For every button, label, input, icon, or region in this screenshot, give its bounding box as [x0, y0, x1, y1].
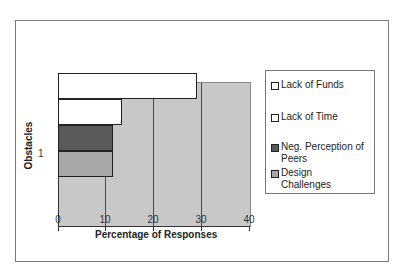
x-tick	[58, 227, 59, 231]
legend-swatch-icon	[271, 82, 279, 90]
x-tick-label: 10	[95, 214, 115, 225]
gridline-20	[153, 83, 154, 227]
x-tick-label: 30	[191, 214, 211, 225]
legend-swatch-icon	[271, 170, 279, 178]
legend-label: Design Challenges	[281, 167, 351, 191]
bar-neg-perception-of-peers	[58, 125, 113, 151]
bar-design-challenges	[58, 151, 113, 177]
legend-item: Neg. Perception of Peers	[271, 141, 371, 165]
legend-swatch-icon	[271, 144, 279, 152]
x-tick-label: 20	[143, 214, 163, 225]
legend-item: Lack of Funds	[271, 79, 344, 91]
y-category-label: 1	[38, 148, 44, 159]
legend: Lack of Funds Lack of Time Neg. Percepti…	[265, 70, 375, 194]
legend-swatch-icon	[271, 114, 279, 122]
x-tick-label: 40	[239, 214, 259, 225]
plot-area	[58, 82, 251, 227]
gridline-30	[201, 83, 202, 227]
legend-item: Lack of Time	[271, 111, 338, 123]
x-tick-label: 0	[48, 214, 68, 225]
bar-lack-of-time	[58, 99, 122, 125]
y-axis-title: Obstacles	[23, 116, 34, 176]
legend-label: Lack of Funds	[281, 79, 344, 91]
bar-lack-of-funds	[58, 73, 197, 99]
legend-label: Lack of Time	[281, 111, 338, 123]
x-axis-line	[58, 226, 250, 227]
x-tick	[249, 227, 250, 231]
legend-label: Neg. Perception of Peers	[281, 141, 371, 165]
x-axis-title: Percentage of Responses	[95, 229, 217, 240]
legend-item: Design Challenges	[271, 167, 351, 191]
